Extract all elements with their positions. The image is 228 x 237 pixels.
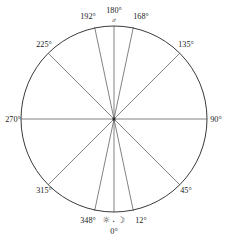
label-348: 348° — [80, 216, 96, 225]
label-180: 180° — [106, 6, 122, 15]
label-168: 168° — [133, 12, 149, 21]
azimuth-svg-canvas: 180° ♂ 192° 168° 225° 135° 270° 90° 315°… — [0, 0, 228, 237]
label-12: 12° — [135, 216, 146, 225]
center-point — [112, 117, 115, 120]
label-45: 45° — [180, 186, 191, 195]
label-315: 315° — [36, 186, 52, 195]
mars-icon: ♂ — [112, 18, 116, 23]
label-225: 225° — [36, 40, 52, 49]
sun-moon-separator-icon: • — [112, 219, 115, 224]
radial-line-168 — [114, 27, 133, 119]
label-135: 135° — [178, 40, 194, 49]
moon-icon: ☽ — [117, 215, 125, 225]
sun-icon: ☼ — [102, 215, 110, 225]
azimuth-diagram: 180° ♂ 192° 168° 225° 135° 270° 90° 315°… — [0, 0, 228, 237]
radial-line-348 — [95, 119, 114, 211]
label-90: 90° — [210, 115, 221, 124]
label-270: 270° — [5, 115, 21, 124]
radial-line-192 — [95, 27, 114, 119]
label-0: 0° — [110, 227, 117, 236]
label-192: 192° — [80, 12, 96, 21]
radial-line-12 — [114, 119, 133, 211]
